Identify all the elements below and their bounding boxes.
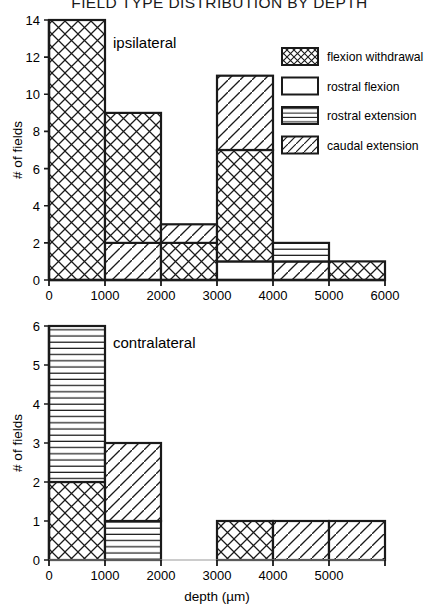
- legend-swatch-rostral-flexion: [282, 78, 318, 95]
- contralateral-svg: 0 1 2 3 4 5 6 # of fields: [0, 318, 439, 608]
- svg-text:3: 3: [33, 436, 40, 451]
- svg-text:4000: 4000: [259, 568, 288, 583]
- svg-text:2: 2: [33, 475, 40, 490]
- svg-text:0: 0: [33, 273, 40, 288]
- svg-text:4: 4: [33, 199, 40, 214]
- bar-segment: [217, 521, 273, 560]
- bar-segment: [329, 521, 385, 560]
- svg-text:10: 10: [26, 87, 40, 102]
- bar-segment: [217, 261, 273, 280]
- legend-label-rostral-flexion: rostral flexion: [327, 80, 399, 94]
- svg-text:1000: 1000: [91, 568, 120, 583]
- svg-text:0: 0: [45, 288, 52, 303]
- svg-text:5: 5: [33, 358, 40, 373]
- svg-text:4: 4: [33, 397, 40, 412]
- y-axis-label-contra: # of fields: [10, 414, 25, 472]
- svg-text:2000: 2000: [147, 568, 176, 583]
- y-axis-ticks-contra: 0 1 2 3 4 5 6: [33, 319, 49, 568]
- svg-text:0: 0: [45, 568, 52, 583]
- bar-segment: [273, 261, 329, 280]
- x-axis-label-contra: depth (µm): [184, 589, 250, 604]
- svg-text:6000: 6000: [371, 288, 400, 303]
- x-axis-ticks-ipsi: 0 1000 2000 3000 4000 5000 6000: [45, 280, 399, 303]
- chart-panel-ipsilateral: 0 2 4 6 8 10 12 14 # of fields: [0, 8, 439, 308]
- svg-text:3000: 3000: [203, 568, 232, 583]
- svg-text:5000: 5000: [315, 568, 344, 583]
- panel-title-contralateral: contralateral: [113, 334, 196, 351]
- legend-label-rostral-extension: rostral extension: [327, 109, 416, 123]
- legend-label-flexion-withdrawal: flexion withdrawal: [327, 50, 423, 64]
- x-axis-ticks-contra: 0 1000 2000 3000 4000 5000: [45, 560, 385, 583]
- svg-text:1: 1: [33, 514, 40, 529]
- svg-text:6: 6: [33, 319, 40, 334]
- svg-text:5000: 5000: [315, 288, 344, 303]
- bar-segment: [161, 224, 217, 243]
- bar-segment: [273, 521, 329, 560]
- svg-text:4000: 4000: [259, 288, 288, 303]
- bar-segment: [161, 243, 217, 280]
- legend-swatch-rostral-extension: [282, 107, 318, 124]
- svg-text:6: 6: [33, 162, 40, 177]
- bar-segment: [49, 482, 105, 560]
- svg-text:2000: 2000: [147, 288, 176, 303]
- figure-root: FIELD TYPE DISTRIBUTION BY DEPTH: [0, 0, 439, 608]
- legend: flexion withdrawal rostral flexion rostr…: [282, 48, 423, 154]
- legend-swatch-caudal-extension: [282, 137, 318, 154]
- legend-swatch-flexion-withdrawal: [282, 48, 318, 65]
- bars-contralateral: [49, 326, 385, 560]
- bar-segment: [329, 261, 385, 280]
- y-axis-ticks-ipsi: 0 2 4 6 8 10 12 14: [26, 13, 49, 288]
- bar-segment: [49, 20, 105, 280]
- bar-segment: [217, 150, 273, 261]
- y-axis-label-ipsi: # of fields: [10, 121, 25, 179]
- svg-text:0: 0: [33, 553, 40, 568]
- svg-text:1000: 1000: [91, 288, 120, 303]
- bar-segment: [49, 326, 105, 482]
- bar-segment: [105, 443, 161, 521]
- bar-segment: [105, 113, 161, 243]
- svg-text:8: 8: [33, 124, 40, 139]
- svg-text:2: 2: [33, 236, 40, 251]
- svg-text:12: 12: [26, 50, 40, 65]
- panel-title-ipsilateral: ipsilateral: [113, 34, 176, 51]
- bar-segment: [105, 243, 161, 280]
- bar-segment: [105, 521, 161, 560]
- bar-segment: [217, 76, 273, 150]
- ipsilateral-svg: 0 2 4 6 8 10 12 14 # of fields: [0, 8, 439, 308]
- svg-text:14: 14: [26, 13, 40, 28]
- bar-segment: [273, 243, 329, 262]
- chart-panel-contralateral: 0 1 2 3 4 5 6 # of fields: [0, 318, 439, 608]
- svg-text:3000: 3000: [203, 288, 232, 303]
- legend-label-caudal-extension: caudal extension: [327, 139, 418, 153]
- x-axis-label-ipsi: depth (µm): [184, 305, 250, 308]
